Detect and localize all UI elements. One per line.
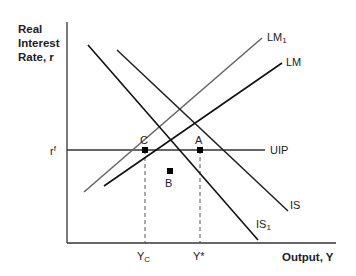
yc-tick-label: YC <box>137 251 150 264</box>
lm-label: LM <box>286 57 301 68</box>
point-c-marker <box>142 147 148 153</box>
rf-tick-label: rf <box>50 145 56 157</box>
y-axis-label: Real Interest Rate, r <box>18 22 60 64</box>
is-lm-uip-diagram: Real Interest Rate, r rf C A B LM1 LM UI… <box>0 0 356 276</box>
point-c-label: C <box>140 135 148 146</box>
is-label: IS <box>290 200 300 211</box>
point-b-marker <box>167 168 173 174</box>
x-axis-label: Output, Y <box>282 252 334 264</box>
ystar-tick-label: Y* <box>193 251 205 262</box>
lm-curve <box>104 63 282 186</box>
point-b-label: B <box>165 178 172 189</box>
uip-label: UIP <box>270 145 288 156</box>
y-axis-label-line2: Interest <box>18 36 60 50</box>
y-axis-label-line1: Real <box>18 22 60 36</box>
is1-curve <box>88 45 258 240</box>
y-axis-label-line3: Rate, r <box>18 50 60 64</box>
is1-label: IS1 <box>256 219 271 232</box>
point-a-marker <box>197 147 203 153</box>
lm1-label: LM1 <box>267 32 287 45</box>
is-curve <box>117 50 288 211</box>
point-a-label: A <box>195 135 202 146</box>
